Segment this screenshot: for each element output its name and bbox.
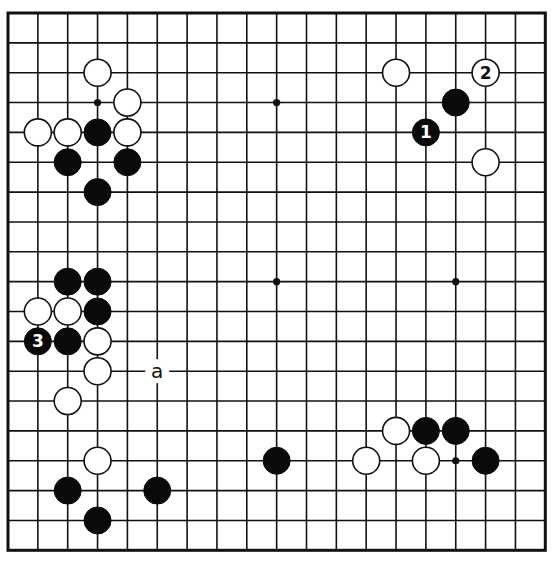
black-stone-icon — [144, 477, 171, 504]
black-stone-icon — [54, 328, 81, 355]
move-number: 3 — [32, 331, 44, 351]
black-stone — [84, 268, 111, 295]
black-stone — [84, 507, 111, 534]
black-stone — [84, 179, 111, 206]
white-stone-icon — [114, 89, 141, 116]
white-stone — [383, 59, 410, 86]
white-stone: 2 — [472, 59, 499, 86]
black-stone — [442, 417, 469, 444]
white-stone-icon — [24, 119, 51, 146]
black-stone — [144, 477, 171, 504]
point-label-a: a — [151, 359, 163, 383]
move-number: 2 — [480, 63, 492, 83]
black-stone — [442, 89, 469, 116]
white-stone-icon — [54, 388, 81, 415]
black-stone — [84, 298, 111, 325]
black-stone — [54, 149, 81, 176]
white-stone-icon — [412, 447, 439, 474]
black-stone-icon — [54, 477, 81, 504]
white-stone-icon — [472, 149, 499, 176]
white-stone — [54, 388, 81, 415]
black-stone: 3 — [24, 328, 51, 355]
white-stone — [472, 149, 499, 176]
black-stone — [54, 268, 81, 295]
white-stone — [383, 417, 410, 444]
star-point — [452, 457, 459, 464]
black-stone — [84, 119, 111, 146]
black-stone-icon — [84, 268, 111, 295]
white-stone-icon — [54, 298, 81, 325]
black-stone — [412, 417, 439, 444]
white-stone — [114, 89, 141, 116]
white-stone — [84, 59, 111, 86]
black-stone-icon — [412, 417, 439, 444]
black-stone-icon — [84, 119, 111, 146]
white-stone — [24, 119, 51, 146]
white-stone — [54, 119, 81, 146]
black-stone-icon — [84, 179, 111, 206]
white-stone-icon — [114, 119, 141, 146]
black-stone-icon — [263, 447, 290, 474]
black-stone — [114, 149, 141, 176]
black-stone: 1 — [412, 119, 439, 146]
black-stone — [472, 447, 499, 474]
star-point — [94, 99, 101, 106]
black-stone-icon — [84, 507, 111, 534]
black-stone-icon — [442, 417, 469, 444]
go-board-diagram: a 321 — [0, 0, 555, 570]
white-stone — [84, 358, 111, 385]
white-stone-icon — [84, 447, 111, 474]
white-stone-icon — [54, 119, 81, 146]
black-stone-icon — [84, 298, 111, 325]
black-stone-icon — [114, 149, 141, 176]
star-point — [452, 278, 459, 285]
white-stone-icon — [84, 59, 111, 86]
white-stone — [353, 447, 380, 474]
star-point — [273, 99, 280, 106]
black-stone — [54, 328, 81, 355]
black-stone-icon — [54, 149, 81, 176]
white-stone-icon — [84, 358, 111, 385]
move-number: 1 — [420, 122, 432, 142]
black-stone — [263, 447, 290, 474]
black-stone-icon — [472, 447, 499, 474]
white-stone-icon — [24, 298, 51, 325]
white-stone — [412, 447, 439, 474]
stones-layer: 321 — [24, 59, 499, 534]
white-stone-icon — [383, 417, 410, 444]
black-stone-icon — [54, 268, 81, 295]
white-stone — [84, 328, 111, 355]
white-stone-icon — [353, 447, 380, 474]
white-stone-icon — [383, 59, 410, 86]
white-stone — [24, 298, 51, 325]
white-stone — [84, 447, 111, 474]
star-point — [273, 278, 280, 285]
black-stone — [54, 477, 81, 504]
white-stone — [114, 119, 141, 146]
black-stone-icon — [442, 89, 469, 116]
white-stone — [54, 298, 81, 325]
point-labels: a — [145, 359, 169, 383]
white-stone-icon — [84, 328, 111, 355]
go-board: a 321 — [0, 0, 555, 570]
